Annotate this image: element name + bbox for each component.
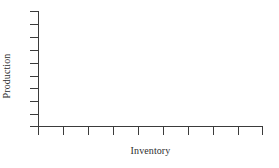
x-axis-tick — [262, 127, 263, 135]
x-axis-tick — [113, 127, 114, 135]
y-axis-tick — [30, 50, 38, 51]
y-axis-tick — [30, 126, 38, 127]
y-axis-line — [38, 11, 39, 127]
x-axis-tick — [188, 127, 189, 135]
x-axis-tick — [238, 127, 239, 135]
x-axis-tick — [138, 127, 139, 135]
x-axis-tick — [63, 127, 64, 135]
y-axis-tick — [30, 114, 38, 115]
x-axis-tick — [163, 127, 164, 135]
chart-figure: Production Inventory — [0, 0, 279, 168]
y-axis-tick — [30, 101, 38, 102]
y-axis-tick — [30, 76, 38, 77]
y-axis-tick — [30, 24, 38, 25]
y-axis-label: Production — [0, 18, 14, 134]
y-axis-tick — [30, 11, 38, 12]
x-axis-tick — [213, 127, 214, 135]
y-axis-tick — [30, 63, 38, 64]
x-axis-tick — [38, 127, 39, 135]
y-axis-tick — [30, 88, 38, 89]
plot-area — [39, 11, 263, 126]
y-axis-tick — [30, 37, 38, 38]
x-axis-tick — [88, 127, 89, 135]
x-axis-line — [38, 126, 263, 127]
x-axis-label: Inventory — [38, 145, 263, 156]
